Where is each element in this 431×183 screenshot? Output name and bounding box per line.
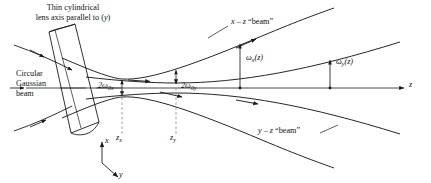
yz-beam-y: y bbox=[258, 126, 262, 135]
xz-beam-leader bbox=[208, 26, 228, 38]
input-beam-line2: Gaussian bbox=[16, 79, 46, 88]
omega-x-label: ωx(z) bbox=[246, 53, 263, 65]
waist-y-label: 2ω0y bbox=[181, 81, 197, 93]
lens-note-line1: Thin cylindrical bbox=[47, 3, 100, 12]
input-beam-line1: Circular bbox=[16, 69, 43, 78]
waist-x-pre: 2ω bbox=[98, 81, 108, 90]
zy-sub: y bbox=[173, 137, 176, 143]
input-beam-label: Circular Gaussian beam bbox=[16, 69, 60, 99]
xz-beam-quoted: “beam” bbox=[248, 17, 273, 26]
xz-beam-z: z bbox=[243, 17, 246, 26]
omega-y-arg: (z) bbox=[344, 57, 353, 66]
zy-label: zy bbox=[170, 133, 176, 145]
lens-note-line2-post: ) bbox=[108, 13, 111, 22]
axis-x-label: x bbox=[105, 136, 109, 146]
waist-x-label: 2ω0x bbox=[98, 81, 114, 93]
omega-x-arg: (z) bbox=[254, 53, 263, 62]
axis-z-label: z bbox=[409, 80, 412, 90]
input-beam-line3: beam bbox=[16, 89, 34, 98]
yz-beam-label: y – z “beam” bbox=[258, 126, 300, 136]
omega-x-measure bbox=[239, 44, 242, 89]
xz-beam-dash: – bbox=[237, 17, 241, 26]
waist-x-sub: 0x bbox=[108, 85, 114, 91]
yz-beam-quoted: “beam” bbox=[275, 126, 300, 135]
diagram-svg bbox=[0, 0, 431, 183]
waist-y-pre: 2ω bbox=[181, 81, 191, 90]
yz-beam-dash: – bbox=[264, 126, 268, 135]
xz-beam-label: x – z “beam” bbox=[231, 17, 273, 27]
xz-beam-x: x bbox=[231, 17, 235, 26]
yz-beam-z: z bbox=[270, 126, 273, 135]
zx-sub: x bbox=[119, 137, 122, 143]
yz-beam-leader bbox=[320, 125, 338, 133]
axis-y-label: y bbox=[119, 170, 123, 180]
lens-note-line2-pre: lens axis parallel to ( bbox=[36, 13, 104, 22]
coordinate-triad bbox=[102, 142, 118, 177]
omega-y-label: ωy(z) bbox=[336, 57, 353, 69]
zx-label: zx bbox=[116, 133, 122, 145]
omega-y-measure bbox=[329, 60, 332, 89]
figure-canvas: Thin cylindrical lens axis parallel to (… bbox=[0, 0, 431, 183]
waist-y-sub: 0y bbox=[191, 85, 197, 91]
lens-note: Thin cylindrical lens axis parallel to (… bbox=[14, 3, 132, 23]
